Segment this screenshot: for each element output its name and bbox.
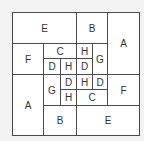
cell-e: E: [76, 105, 140, 136]
cell-b: B: [76, 12, 108, 44]
cell-a: A: [12, 74, 44, 136]
cell-h: H: [60, 58, 77, 75]
cell-g: G: [43, 74, 61, 106]
cell-d: D: [92, 74, 108, 90]
cell-e: E: [12, 12, 77, 44]
cell-f: F: [12, 43, 44, 75]
cell-h: H: [76, 43, 93, 59]
cell-h: H: [76, 74, 93, 90]
cell-c: C: [43, 43, 77, 59]
cell-a: A: [107, 12, 140, 75]
cell-g: G: [92, 43, 108, 75]
cell-b: B: [43, 105, 77, 136]
cell-c: C: [76, 89, 108, 106]
cell-d: D: [76, 58, 93, 75]
cell-d: D: [43, 58, 61, 75]
cell-f: F: [107, 74, 140, 106]
cell-h: H: [60, 89, 77, 106]
cell-d: D: [60, 74, 77, 90]
